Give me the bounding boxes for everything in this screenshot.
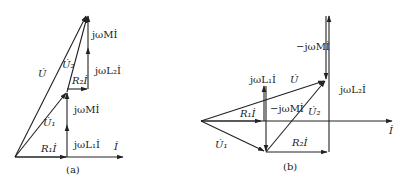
label-r2i-a: R₂İ bbox=[71, 75, 89, 86]
label-u1-a: U̇₁ bbox=[43, 117, 55, 128]
label-jwl2i-a: jωL₂İ bbox=[94, 65, 121, 76]
label-u-a: U̇ bbox=[38, 68, 47, 79]
label-r1i-a: R₁İ bbox=[40, 143, 58, 154]
label-neg-jwmi-upper-b: −jωMİ bbox=[296, 41, 330, 52]
caption-b: (b) bbox=[283, 161, 297, 172]
u-phasor-a bbox=[15, 16, 86, 157]
label-u-b: U̇ bbox=[290, 74, 299, 85]
label-i-a: İ bbox=[113, 141, 119, 152]
panel-b: −jωMİ jωL₁İ U̇ jωL₂İ −jωMİ R₁İ U̇₂ İ U̇₁… bbox=[201, 16, 394, 172]
caption-a: (a) bbox=[66, 164, 80, 175]
u1-phasor-b bbox=[201, 121, 264, 151]
label-jwl1i-a: jωL₁İ bbox=[73, 139, 100, 150]
label-jwl1i-b: jωL₁İ bbox=[249, 74, 276, 85]
panel-a: U̇ U̇₂ U̇₁ R₁İ jωL₁İ jωMİ R₂İ jωL₂İ jωMİ… bbox=[15, 16, 123, 175]
label-u1-b: U̇₁ bbox=[215, 139, 227, 150]
label-u2-a: U̇₂ bbox=[62, 59, 74, 70]
label-i-b: İ bbox=[388, 125, 394, 136]
label-r1i-b: R₁İ bbox=[239, 108, 257, 119]
label-jwmi-upper-a: jωMİ bbox=[91, 29, 117, 40]
label-neg-jwmi-inner-b: −jωMİ bbox=[270, 103, 304, 114]
label-jwmi-lower-a: jωMİ bbox=[73, 104, 99, 115]
label-jwl2i-b: jωL₂İ bbox=[339, 84, 366, 95]
u-phasor-b bbox=[201, 81, 324, 121]
phasor-diagram: U̇ U̇₂ U̇₁ R₁İ jωL₁İ jωMİ R₂İ jωL₂İ jωMİ… bbox=[0, 0, 405, 188]
label-r2i-b: R₂İ bbox=[291, 137, 309, 148]
label-u2-b: U̇₂ bbox=[308, 106, 320, 117]
